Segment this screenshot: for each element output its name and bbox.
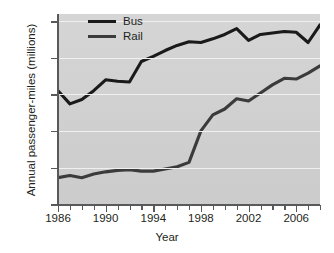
chart-legend: Bus Rail [88,14,143,44]
x-axis-tick [284,205,285,210]
x-axis-tick [201,205,202,212]
y-axis-tick [51,21,57,23]
cut-off-caption [28,245,268,253]
x-axis-tick [141,205,142,210]
x-axis-tick [165,205,166,210]
x-axis-tick-label: 2006 [283,213,309,225]
x-axis-tick [320,205,321,210]
gridline [58,131,320,132]
y-axis-tick [51,168,57,170]
x-axis-tick-label: 1998 [188,213,214,225]
x-axis-tick [237,205,238,210]
y-axis-line [57,14,59,205]
gridline [58,94,320,95]
x-axis-tick [296,205,297,212]
x-axis-tick [118,205,119,210]
x-axis-tick [106,205,107,212]
series-line-rail [58,66,320,178]
x-axis-tick [82,205,83,210]
line-swatch-rail-icon [88,35,116,38]
x-axis-tick [261,205,262,210]
legend-label-rail: Rail [123,31,143,43]
x-axis-tick [94,205,95,210]
x-axis-tick [70,205,71,210]
x-axis-tick [272,205,273,210]
x-axis-tick [153,205,154,212]
x-axis-tick-label: 1994 [141,213,167,225]
x-axis-tick-label: 2002 [236,213,262,225]
x-axis-tick [308,205,309,210]
x-axis-tick [225,205,226,210]
chart-figure: 050100150200250 Annual passenger-miles (… [0,0,334,253]
y-axis-tick [51,58,57,60]
x-axis-tick [249,205,250,212]
legend-item-bus: Bus [88,14,143,29]
y-axis-tick [51,204,57,206]
y-axis-tick [51,131,57,133]
x-axis-title: Year [0,231,334,243]
x-axis-tick [58,205,59,212]
legend-item-rail: Rail [88,29,143,44]
line-swatch-bus-icon [88,20,116,24]
x-axis-tick [130,205,131,210]
y-axis-tick [51,94,57,96]
x-axis-tick-label: 1990 [93,213,119,225]
x-axis-tick [213,205,214,210]
gridline [58,168,320,169]
x-axis-tick-label: 1986 [45,213,71,225]
y-axis-tick-labels: 050100150200250 [0,0,48,253]
gridline [58,58,320,59]
y-axis-title: Annual passenger-miles (millions) [25,15,37,205]
legend-label-bus: Bus [123,16,143,28]
x-axis-tick [177,205,178,210]
x-axis-tick [189,205,190,210]
